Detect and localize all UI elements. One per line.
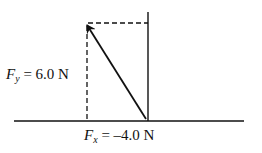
fy-symbol: F <box>6 66 15 82</box>
fy-component-label: Fy = 6.0 N <box>6 67 69 84</box>
force-vector-arrow <box>87 25 146 119</box>
fx-symbol: F <box>84 127 93 143</box>
fy-value: = 6.0 N <box>20 66 69 82</box>
fx-value: = –4.0 N <box>98 127 155 143</box>
fx-component-label: Fx = –4.0 N <box>84 128 154 145</box>
